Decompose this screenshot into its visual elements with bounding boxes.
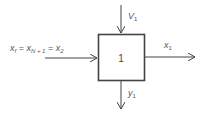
vapor-in-label: V1	[128, 11, 138, 22]
vapor-out-label: y1	[127, 88, 137, 99]
feed-label: xf = xN + 1 = x2	[9, 43, 64, 54]
stage-block-diagram: 1 xf = xN + 1 = x2 V1 x1 y1	[0, 0, 207, 121]
liquid-out-label: x1	[163, 40, 173, 51]
stage-label: 1	[118, 53, 124, 64]
